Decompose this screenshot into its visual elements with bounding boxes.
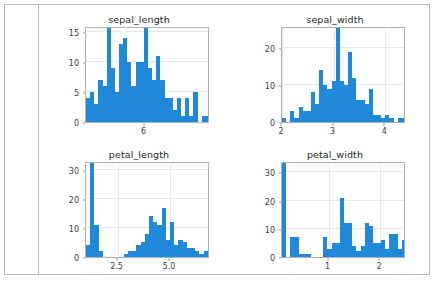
gridline-vertical — [118, 163, 119, 257]
plot-axes — [281, 27, 405, 123]
x-tick-mark — [379, 258, 380, 261]
y-tick-mark — [279, 173, 282, 174]
histogram-bar — [389, 118, 393, 122]
x-tick-mark — [327, 258, 328, 261]
plot-title: petal_width — [237, 149, 433, 160]
histogram-bar — [206, 116, 209, 122]
y-tick-mark — [83, 33, 86, 34]
y-tick-label: 0 — [41, 119, 79, 128]
y-tick-mark — [279, 86, 282, 87]
y-tick-label: 0 — [41, 254, 79, 263]
histogram-bar — [99, 251, 103, 257]
plot-axes — [85, 162, 209, 258]
x-tick-label: 4 — [382, 127, 387, 136]
plot-axes — [85, 27, 209, 123]
histogram-bar — [282, 162, 286, 257]
gridline-vertical — [282, 28, 283, 122]
x-tick-mark — [281, 123, 282, 126]
y-tick-label: 20 — [41, 195, 79, 204]
plot-axes — [281, 162, 405, 258]
gridline-horizontal — [86, 169, 208, 170]
x-tick-label: 2 — [377, 262, 382, 271]
y-tick-mark — [279, 201, 282, 202]
x-tick-label: 1 — [325, 262, 330, 271]
histogram-bar — [193, 92, 197, 122]
y-tick-mark — [83, 63, 86, 64]
x-tick-mark — [116, 258, 117, 261]
histogram-panel-petal-length: petal_length01020302.55.0 — [41, 144, 237, 279]
y-tick-mark — [83, 123, 86, 124]
plot-title: sepal_length — [41, 14, 237, 25]
x-tick-mark — [143, 123, 144, 126]
gridline-vertical — [329, 163, 330, 257]
gridline-vertical — [385, 28, 386, 122]
histogram-panel-petal-width: petal_width010203012 — [237, 144, 433, 279]
y-tick-mark — [279, 258, 282, 259]
y-tick-mark — [83, 258, 86, 259]
histogram-bar — [282, 118, 286, 122]
histogram-bar — [204, 251, 208, 257]
x-tick-mark — [332, 123, 333, 126]
y-tick-label: 10 — [41, 59, 79, 68]
x-tick-label: 5.0 — [163, 262, 176, 271]
matplotlib-figure: sepal_length0510156sepal_width01020234pe… — [39, 5, 429, 274]
gridline-horizontal — [86, 227, 208, 228]
y-tick-mark — [83, 199, 86, 200]
histogram-bar — [402, 118, 405, 122]
y-tick-label: 0 — [237, 119, 275, 128]
plot-title: petal_length — [41, 149, 237, 160]
notebook-output-cell: sepal_length0510156sepal_width01020234pe… — [4, 4, 430, 275]
y-tick-label: 10 — [237, 225, 275, 234]
y-tick-label: 20 — [237, 197, 275, 206]
y-tick-mark — [83, 170, 86, 171]
y-tick-label: 30 — [41, 166, 79, 175]
x-tick-mark — [169, 258, 170, 261]
y-tick-label: 30 — [237, 169, 275, 178]
y-tick-label: 20 — [237, 45, 275, 54]
y-tick-label: 5 — [41, 89, 79, 98]
y-tick-mark — [83, 93, 86, 94]
histogram-bar — [307, 254, 311, 257]
y-tick-mark — [279, 229, 282, 230]
histogram-panel-sepal-width: sepal_width01020234 — [237, 9, 433, 144]
y-tick-label: 0 — [237, 254, 275, 263]
plot-title: sepal_width — [237, 14, 433, 25]
y-tick-mark — [279, 49, 282, 50]
x-tick-label: 3 — [330, 127, 335, 136]
x-tick-label: 2.5 — [110, 262, 123, 271]
y-tick-label: 15 — [41, 29, 79, 38]
gridline-horizontal — [86, 198, 208, 199]
x-tick-label: 6 — [141, 127, 146, 136]
y-tick-label: 10 — [41, 224, 79, 233]
histogram-bar — [402, 240, 405, 257]
x-tick-label: 2 — [278, 127, 283, 136]
gridline-horizontal — [282, 171, 404, 172]
histogram-panel-sepal-length: sepal_length0510156 — [41, 9, 237, 144]
y-tick-label: 10 — [237, 82, 275, 91]
x-tick-mark — [384, 123, 385, 126]
y-tick-mark — [83, 228, 86, 229]
